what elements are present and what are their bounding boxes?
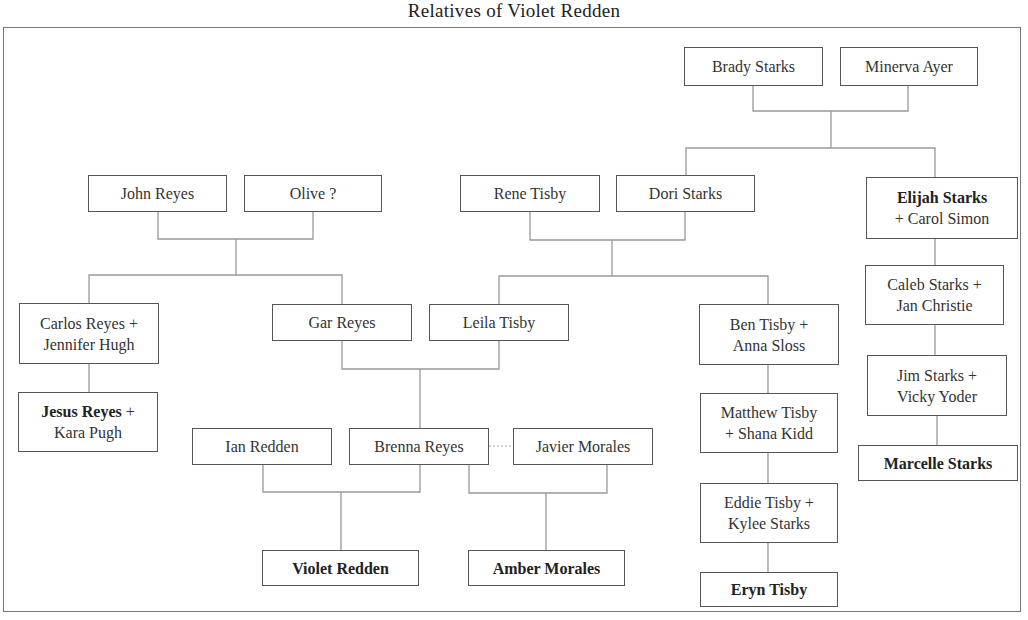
spouse-name: Kylee Starks xyxy=(728,513,810,534)
person-name: Ian Redden xyxy=(225,436,298,457)
person-name: Ben Tisby + xyxy=(730,314,808,335)
person-matthew-tisby[interactable]: Matthew Tisby + Shana Kidd xyxy=(700,393,838,453)
person-name: Gar Reyes xyxy=(308,312,375,333)
person-rene-tisby[interactable]: Rene Tisby xyxy=(460,175,600,212)
spouse-name: Anna Sloss xyxy=(733,335,805,356)
person-name: Rene Tisby xyxy=(494,183,566,204)
person-dori-starks[interactable]: Dori Starks xyxy=(616,175,755,212)
person-olive[interactable]: Olive ? xyxy=(244,175,382,212)
plus-sign: + xyxy=(122,403,135,420)
person-name: Brady Starks xyxy=(712,56,795,77)
person-amber-morales[interactable]: Amber Morales xyxy=(468,550,625,586)
person-carlos-reyes[interactable]: Carlos Reyes + Jennifer Hugh xyxy=(19,303,159,364)
person-eryn-tisby[interactable]: Eryn Tisby xyxy=(700,572,838,607)
person-violet-redden[interactable]: Violet Redden xyxy=(262,550,419,586)
person-name: Minerva Ayer xyxy=(865,56,953,77)
person-name: Jim Starks + xyxy=(897,365,977,386)
person-jim-starks[interactable]: Jim Starks + Vicky Yoder xyxy=(867,355,1007,416)
person-name: John Reyes xyxy=(121,183,194,204)
person-name: Carlos Reyes + xyxy=(40,313,138,334)
spouse-name: + Shana Kidd xyxy=(725,423,813,444)
person-name: Olive ? xyxy=(290,183,337,204)
spouse-name: + Carol Simon xyxy=(895,208,989,229)
person-name: Jesus Reyes xyxy=(41,403,121,420)
person-gar-reyes[interactable]: Gar Reyes xyxy=(272,304,412,341)
spouse-name: Kara Pugh xyxy=(54,422,122,443)
person-jesus-reyes[interactable]: Jesus Reyes + Kara Pugh xyxy=(18,392,158,452)
spouse-name: Vicky Yoder xyxy=(897,386,977,407)
person-name: Marcelle Starks xyxy=(884,453,993,474)
person-name: Elijah Starks xyxy=(897,187,987,208)
person-name-line: Jesus Reyes + xyxy=(41,401,134,422)
person-minerva-ayer[interactable]: Minerva Ayer xyxy=(840,47,978,86)
person-john-reyes[interactable]: John Reyes xyxy=(88,175,227,212)
person-ben-tisby[interactable]: Ben Tisby + Anna Sloss xyxy=(699,304,839,365)
person-name: Eryn Tisby xyxy=(731,579,807,600)
person-javier-morales[interactable]: Javier Morales xyxy=(513,428,653,465)
spouse-name: Jennifer Hugh xyxy=(43,334,134,355)
person-name: Violet Redden xyxy=(292,558,389,579)
person-name: Dori Starks xyxy=(649,183,722,204)
person-name: Eddie Tisby + xyxy=(724,492,814,513)
person-caleb-starks[interactable]: Caleb Starks + Jan Christie xyxy=(865,265,1004,325)
person-eddie-tisby[interactable]: Eddie Tisby + Kylee Starks xyxy=(700,483,838,543)
person-name: Matthew Tisby xyxy=(721,402,817,423)
person-brady-starks[interactable]: Brady Starks xyxy=(684,47,823,86)
person-ian-redden[interactable]: Ian Redden xyxy=(192,428,332,465)
person-name: Leila Tisby xyxy=(463,312,535,333)
person-leila-tisby[interactable]: Leila Tisby xyxy=(429,304,569,341)
person-name: Brenna Reyes xyxy=(374,436,463,457)
person-name: Javier Morales xyxy=(536,436,631,457)
person-name: Caleb Starks + xyxy=(887,274,981,295)
person-marcelle-starks[interactable]: Marcelle Starks xyxy=(858,445,1018,481)
person-name: Amber Morales xyxy=(493,558,601,579)
spouse-name: Jan Christie xyxy=(897,295,973,316)
person-brenna-reyes[interactable]: Brenna Reyes xyxy=(349,428,489,465)
person-elijah-starks[interactable]: Elijah Starks + Carol Simon xyxy=(866,177,1018,239)
